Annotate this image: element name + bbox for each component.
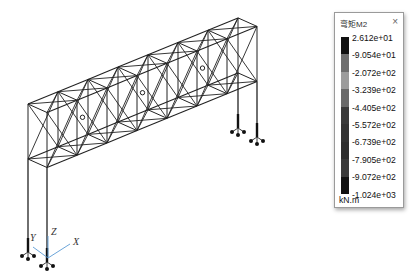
legend-value: -9.054e+01 bbox=[352, 50, 396, 60]
legend-value: -3.239e+02 bbox=[352, 85, 396, 95]
legend-panel: 弯矩M2 × 2.612e+01 -9.054e+01 -2.072e+02 -… bbox=[334, 12, 404, 208]
close-icon[interactable]: × bbox=[392, 16, 398, 27]
legend-value: -2.072e+02 bbox=[352, 68, 396, 78]
color-band bbox=[341, 177, 349, 194]
legend-value: -5.572e+02 bbox=[352, 120, 396, 130]
legend-title: 弯矩M2 bbox=[340, 18, 367, 29]
legend-value: -9.072e+02 bbox=[352, 172, 396, 182]
color-band bbox=[341, 72, 349, 89]
color-band bbox=[341, 107, 349, 124]
color-band bbox=[341, 89, 349, 106]
axis-label-z: Z bbox=[51, 226, 57, 237]
axis-label-y: Y bbox=[30, 232, 36, 243]
legend-value: 2.612e+01 bbox=[352, 33, 393, 43]
legend-unit: kN.m bbox=[339, 195, 359, 205]
color-scale-bar bbox=[341, 37, 349, 194]
color-band bbox=[341, 54, 349, 71]
color-band bbox=[341, 37, 349, 54]
legend-value: -6.739e+02 bbox=[352, 137, 396, 147]
axis-label-x: X bbox=[73, 236, 79, 247]
color-band bbox=[341, 124, 349, 141]
color-band bbox=[341, 159, 349, 176]
color-band bbox=[341, 142, 349, 159]
legend-value: -7.905e+02 bbox=[352, 155, 396, 165]
legend-value: -4.405e+02 bbox=[352, 103, 396, 113]
